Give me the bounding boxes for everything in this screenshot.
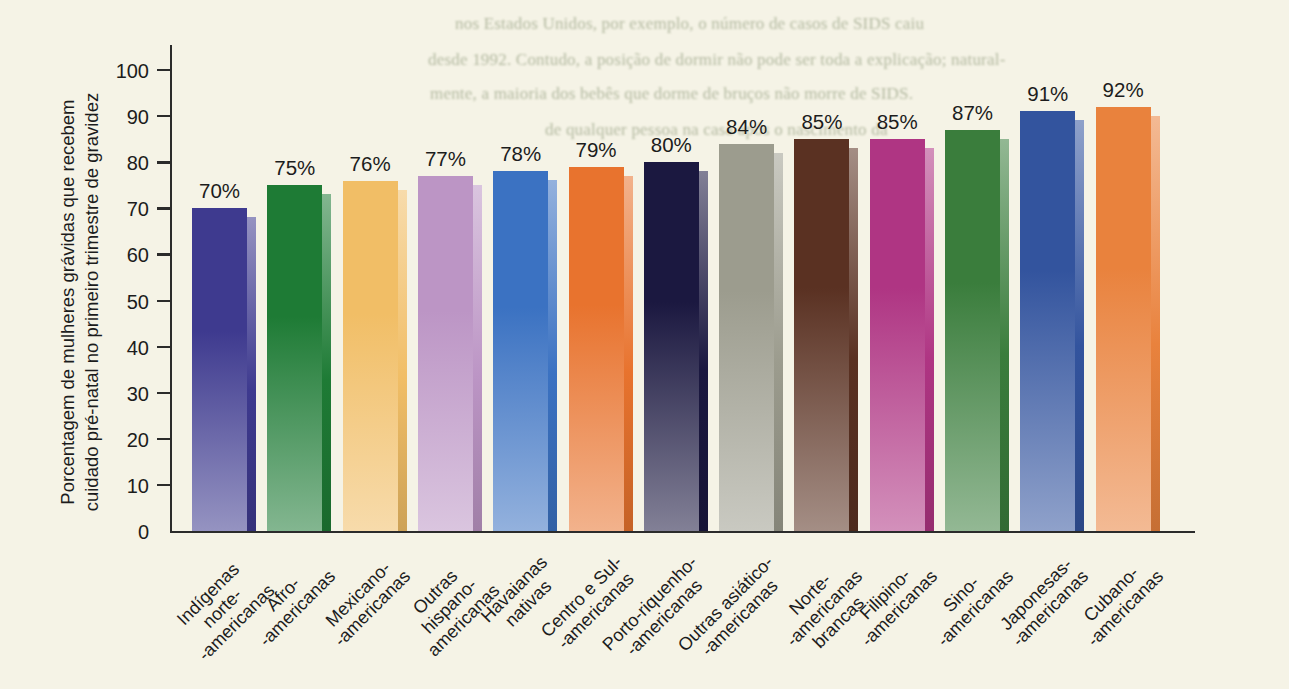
bar (644, 162, 699, 531)
y-tick-label: 60 (97, 245, 149, 265)
y-axis-line (170, 45, 172, 533)
y-tick-label: 30 (97, 384, 149, 404)
y-axis-title: Porcentagem de mulheres grávidas que rec… (56, 65, 104, 539)
bar-value-label: 85% (801, 110, 842, 134)
bar (418, 176, 473, 531)
bar (343, 181, 398, 531)
bar (569, 167, 624, 531)
bar-value-label: 75% (274, 156, 315, 180)
y-tick (157, 115, 170, 117)
bar-value-label: 80% (651, 133, 692, 157)
y-tick (157, 161, 170, 163)
y-tick-label: 10 (97, 476, 149, 496)
bar-value-label: 78% (500, 142, 541, 166)
y-axis-title-line: Porcentagem de mulheres grávidas que rec… (56, 65, 80, 539)
x-tick-label-text: Cubano--americanas (1069, 552, 1168, 651)
bar-value-label: 85% (877, 110, 918, 134)
y-tick-label: 80 (97, 153, 149, 173)
bar-value-label: 91% (1027, 82, 1068, 106)
bar-value-label: 92% (1103, 78, 1144, 102)
y-tick (157, 207, 170, 209)
y-tick (157, 253, 170, 255)
bar-value-label: 79% (575, 138, 616, 162)
bar-value-label: 87% (952, 101, 993, 125)
bar-value-label: 70% (199, 179, 240, 203)
y-tick-label: 40 (97, 338, 149, 358)
y-tick-label: 90 (97, 107, 149, 127)
y-tick (157, 346, 170, 348)
bar (794, 139, 849, 531)
bar (192, 208, 247, 531)
y-tick (157, 300, 170, 302)
bar-value-label: 84% (726, 115, 767, 139)
y-tick-label: 0 (97, 522, 149, 542)
y-tick-label: 20 (97, 430, 149, 450)
y-axis-title-line: cuidado pré-natal no primeiro trimestre … (80, 65, 104, 539)
bar (1020, 111, 1075, 531)
y-tick (157, 438, 170, 440)
bar (945, 130, 1000, 531)
bar (493, 171, 548, 531)
bar (267, 185, 322, 531)
bar (719, 144, 774, 531)
bar-value-label: 76% (350, 152, 391, 176)
x-axis-line (170, 531, 1195, 533)
scanned-page: nos Estados Unidos, por exemplo, o númer… (0, 0, 1289, 689)
prenatal-care-bar-chart: 0102030405060708090100Porcentagem de mul… (0, 0, 1289, 689)
y-tick-label: 50 (97, 292, 149, 312)
y-tick-label: 70 (97, 199, 149, 219)
y-tick (157, 392, 170, 394)
y-tick (157, 484, 170, 486)
bar-value-label: 77% (425, 147, 466, 171)
y-tick-label: 100 (97, 61, 149, 81)
bar (870, 139, 925, 531)
bar (1096, 107, 1151, 531)
y-tick (157, 69, 170, 71)
